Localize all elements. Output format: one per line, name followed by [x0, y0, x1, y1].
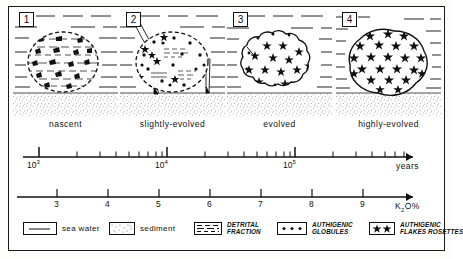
stage-label-2: slightly-evolved	[118, 119, 227, 129]
stage-label-1: nascent	[11, 119, 120, 129]
figure-frame: 1	[8, 6, 445, 251]
k2o-tick-label-9: 9	[360, 199, 365, 209]
authigenic-globules-swatch-icon	[277, 222, 307, 235]
legend-item-sea-water: sea water	[23, 215, 100, 241]
k2o-axis-label: K2O%	[395, 201, 420, 213]
legend-item-authigenic-flakes: AUTHIGENIC FLAKES ROSETTES	[369, 215, 463, 241]
k2o-tick-label-6: 6	[207, 199, 212, 209]
panel-number-box-3: 3	[233, 12, 248, 27]
sea-water-swatch-icon	[23, 222, 57, 235]
years-tick-label-0: 103	[27, 159, 40, 170]
years-tick-label-1: 104	[155, 159, 168, 170]
legend-label-authigenic-flakes: AUTHIGENIC FLAKES ROSETTES	[400, 221, 463, 236]
years-tick-label-2: 105	[283, 159, 296, 170]
authigenic-flakes-swatch-icon	[369, 222, 395, 235]
detrital-fraction-swatch-icon	[194, 222, 222, 235]
panels-row: 1	[9, 7, 446, 139]
k2o-tick-label-8: 8	[309, 199, 314, 209]
k2o-tick-label-3: 3	[54, 199, 59, 209]
years-axis-label: years	[396, 161, 419, 171]
legend-label-authigenic-globules: AUTHIGENIC GLOBULES	[312, 221, 353, 236]
panel-1: 1	[11, 7, 120, 139]
panel-2: 2	[118, 7, 227, 139]
legend-label-sediment: sediment	[140, 224, 175, 233]
panel-3: 3	[225, 7, 334, 139]
stage-label-3: evolved	[225, 119, 334, 129]
k2o-tick-label-7: 7	[258, 199, 263, 209]
sediment-swatch-icon	[109, 222, 135, 235]
panel-number-box-1: 1	[19, 12, 34, 27]
legend-item-authigenic-globules: AUTHIGENIC GLOBULES	[277, 215, 353, 241]
panel-4: 4	[334, 7, 443, 139]
legend-label-sea-water: sea water	[62, 224, 100, 233]
k2o-tick-label-4: 4	[105, 199, 110, 209]
legend-item-detrital-fraction: DETRITAL FRACTION	[194, 215, 261, 241]
k2o-tick-label-5: 5	[156, 199, 161, 209]
stage-label-4: highly-evolved	[334, 119, 443, 129]
legend: sea water sediment	[9, 215, 446, 245]
panel-number-box-2: 2	[126, 12, 141, 27]
years-axis: 103 104 105 years	[9, 141, 446, 175]
legend-label-detrital-fraction: DETRITAL FRACTION	[227, 221, 261, 236]
legend-item-sediment: sediment	[109, 215, 175, 241]
panel-number-box-4: 4	[342, 12, 357, 27]
k2o-axis: 3 4 5 6 7 8 9 K2O%	[9, 181, 446, 215]
